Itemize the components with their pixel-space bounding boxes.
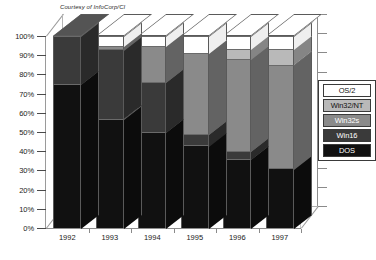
bar-column-1997 [266,36,294,228]
y-axis-tick-label: 80% [0,70,34,79]
bar-segment-side-DOS [81,70,99,229]
bar-segment-Win32s [223,59,251,151]
bar-segment-side-DOS [124,104,142,229]
chart-frame-line [37,132,46,133]
chart-frame-line [37,36,46,37]
x-axis-tick-label: 1994 [132,233,172,242]
x-axis-tick-label: 1993 [90,233,130,242]
bar-segment-side-DOS [209,131,227,229]
bar-segment-Win32NT [223,49,251,59]
bar-column-1995 [181,36,209,228]
bar-segment-OS2 [181,36,209,53]
bar-segment-Win32NT [266,49,294,64]
x-axis-tick-label: 1992 [47,233,87,242]
bar-segment-Win16 [53,36,81,84]
chart-frame-line [37,190,46,191]
bar-segment-OS2 [138,36,166,46]
bar-segment-Win32s [138,46,166,82]
y-axis-tick-label: 100% [0,32,34,41]
x-axis-tick [131,229,132,233]
x-axis-tick [89,229,90,233]
bar-segment-Win16 [96,49,124,118]
chart-frame-line [318,52,327,53]
x-axis-tick-label: 1995 [175,233,215,242]
chart-frame-line [37,228,46,229]
bar-segment-DOS [53,84,81,228]
legend-item-label: Win32s [335,117,359,125]
bar-segment-Win16 [138,82,166,132]
bar-segment-side-Win32s [209,39,227,135]
bar-segment-OS2 [96,36,124,46]
x-axis-tick [174,229,175,233]
x-axis-tick [301,229,302,233]
bar-segment-side-Win32s [294,51,312,170]
legend-item-OS2[interactable]: OS/2 [323,84,371,97]
legend-item-Win32NT[interactable]: Win32/NT [323,99,371,112]
bar-segment-Win16 [223,151,251,159]
y-axis-tick-label: 50% [0,128,34,137]
chart-legend: OS/2Win32/NTWin32sWin16DOS [318,80,376,161]
bar-segment-side-DOS [251,145,269,229]
bar-segment-Win32s [96,46,124,50]
chart-frame-line [318,72,327,73]
chart-frame-line [37,55,46,56]
chart-frame-line [318,33,327,34]
y-axis-tick-label: 70% [0,90,34,99]
x-axis-tick [216,229,217,233]
y-axis-tick-label: 30% [0,166,34,175]
chart-frame-line [318,187,327,188]
bar-segment-Win32s [266,65,294,169]
legend-item-Win32s[interactable]: Win32s [323,114,371,127]
bar-column-1994 [138,36,166,228]
legend-item-label: DOS [339,147,355,155]
y-axis-tick-label: 60% [0,109,34,118]
bar-column-1993 [96,36,124,228]
bar-segment-DOS [138,132,166,228]
bar-segment-OS2 [223,36,251,49]
bar-segment-side-DOS [166,118,184,229]
chart-frame-line [37,170,46,171]
x-axis-tick [259,229,260,233]
chart-frame-line [37,209,46,210]
bar-segment-OS2 [266,36,294,49]
x-axis-tick-label: 1996 [217,233,257,242]
y-axis-tick-label: 0% [0,224,34,233]
y-axis-tick-label: 10% [0,205,34,214]
bar-segment-DOS [96,119,124,228]
x-axis-tick-label: 1997 [260,233,300,242]
legend-item-label: OS/2 [339,87,356,95]
bar-segment-Win32s [181,53,209,134]
legend-item-label: Win16 [337,132,358,140]
y-axis-tick-label: 20% [0,186,34,195]
chart-frame-line [37,74,46,75]
bar-segment-side-Win32s [251,45,269,152]
chart-frame-line [318,206,327,207]
legend-item-label: Win32/NT [331,102,364,110]
y-axis-tick-label: 90% [0,51,34,60]
bar-segment-DOS [266,168,294,228]
chart-frame-line [37,94,46,95]
bar-segment-DOS [223,159,251,228]
legend-item-DOS[interactable]: DOS [323,144,371,157]
chart-frame-line [318,168,327,169]
chart-frame-line [37,151,46,152]
bar-segment-Win16 [181,134,209,146]
legend-item-Win16[interactable]: Win16 [323,129,371,142]
chart-frame-line [37,113,46,114]
bar-column-1996 [223,36,251,228]
bar-column-1992 [53,36,81,228]
y-axis-tick-label: 40% [0,147,34,156]
bar-segment-DOS [181,145,209,228]
